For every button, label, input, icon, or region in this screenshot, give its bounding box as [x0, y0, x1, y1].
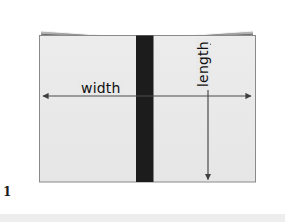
length-dimension-label: length	[196, 38, 210, 90]
figure-container: width length 1	[0, 0, 285, 222]
figure-number: 1	[3, 185, 11, 199]
bottom-divider-band	[0, 214, 285, 222]
width-dimension-label: width	[78, 81, 124, 95]
book-dimensions-diagram	[0, 0, 285, 222]
book-spine	[136, 36, 154, 183]
